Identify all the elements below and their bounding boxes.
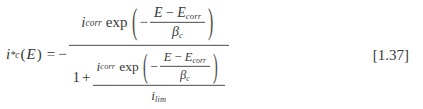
equation-row: i*c (E) = − icorr exp ( − E [0, 0, 423, 109]
nested-exponent-fraction: E − Ecorr βc [160, 50, 210, 84]
main-fraction-bar [69, 45, 229, 46]
numerator-argument-sign: − [140, 14, 150, 31]
numerator-beta-subscript: c [179, 31, 183, 41]
nested-exponent-numerator: E − Ecorr [160, 50, 210, 65]
nested-numerator-expression: icorr exp ( − E − Ecorr [97, 50, 221, 84]
numerator-exponent-fraction: E − Ecorr βc [150, 4, 205, 40]
numerator-exponent-Ecorr-symbol: E [177, 4, 186, 19]
nested-close-paren: ) [213, 47, 218, 86]
nested-exp-function: exp [115, 58, 140, 74]
numerator-exponent-Ecorr-subscript: corr [186, 11, 201, 21]
numerator-exponent-numerator: E − Ecorr [150, 4, 205, 21]
numerator-close-paren: ) [208, 2, 213, 44]
denominator-plus-sign: + [82, 69, 92, 86]
equation-left-hand-side: i*c (E) [6, 46, 43, 63]
numerator-beta-symbol: β [172, 24, 179, 39]
nested-exponent-fraction-bar [160, 66, 210, 67]
nested-open-paren: ( [143, 47, 148, 86]
equation-number: [1.37] [373, 46, 409, 63]
main-fraction-numerator: icorr exp ( − E − Ecorr βc [69, 4, 229, 41]
numerator-icorr-subscript: corr [85, 17, 101, 27]
main-fraction-denominator: 1+ icorr exp ( − [69, 49, 229, 105]
nested-icorr-subscript: corr [100, 62, 115, 71]
nested-fraction: icorr exp ( − E − Ecorr [93, 50, 225, 105]
nested-fraction-denominator: ilim [93, 88, 225, 105]
lhs-close-paren: ) [36, 46, 43, 63]
main-fraction: icorr exp ( − E − Ecorr βc [69, 4, 229, 104]
numerator-exp-function: exp [102, 14, 129, 31]
nested-beta-subscript: c [186, 74, 190, 83]
nested-argument-sign: − [150, 58, 160, 74]
lhs-argument: E [27, 46, 36, 63]
numerator-open-paren: ( [131, 2, 136, 44]
nested-fraction-bar [93, 85, 225, 86]
leading-minus-sign: − [58, 46, 68, 63]
equation-expression: i*c (E) = − icorr exp ( − E [6, 4, 229, 104]
nested-exponent-denominator: βc [160, 68, 210, 83]
numerator-exponent-denominator: βc [150, 24, 205, 41]
equation-page: i*c (E) = − icorr exp ( − E [0, 0, 423, 109]
denominator-one: 1 [73, 69, 83, 86]
nested-exponent-E: E [164, 50, 172, 64]
nested-exponent-Ecorr-subscript: corr [192, 56, 206, 65]
numerator-exponent-E: E [154, 4, 163, 19]
lhs-open-paren: ( [20, 46, 27, 63]
denominator-expression: 1+ icorr exp ( − [73, 50, 225, 105]
numerator-expression: icorr exp ( − E − Ecorr βc [81, 4, 216, 40]
ilim-subscript: lim [155, 96, 166, 105]
nested-exponent-minus: − [175, 50, 182, 64]
numerator-exponent-fraction-bar [150, 22, 205, 23]
nested-fraction-numerator: icorr exp ( − E − Ecorr [93, 50, 225, 84]
numerator-exponent-minus: − [166, 4, 174, 19]
equals-sign: = [43, 46, 58, 63]
